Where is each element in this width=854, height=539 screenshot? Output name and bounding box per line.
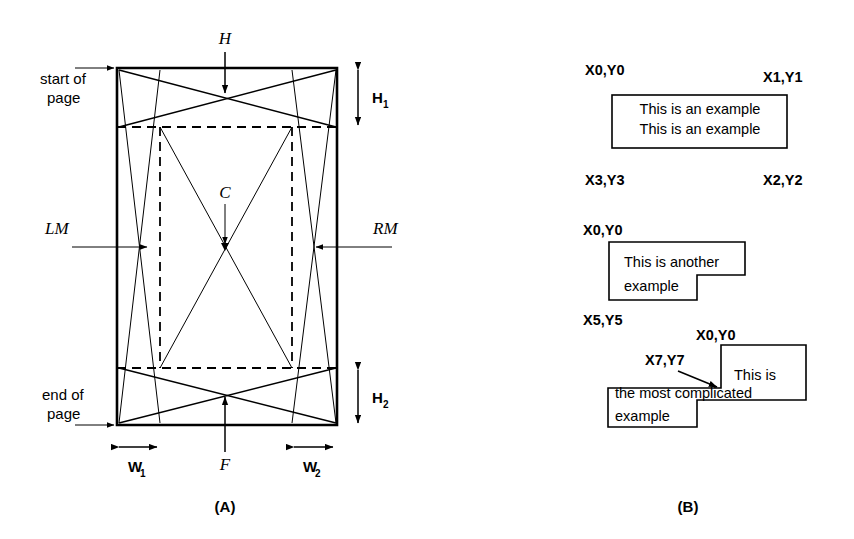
example3-group: X0,Y0 This is the most complicated examp…: [608, 327, 806, 427]
w1-dimension: W 1: [119, 447, 157, 479]
example3-text-line2: the most complicated: [615, 385, 752, 401]
start-of-page-label-line1: start of: [40, 70, 87, 87]
end-of-page-label-line1: end of: [42, 386, 85, 403]
h1-label: H: [372, 89, 383, 106]
w2-label-subscript: 2: [315, 468, 321, 479]
w1-label-subscript: 1: [140, 468, 146, 479]
example2-group: X0,Y0 This is another example X5,Y5: [583, 222, 745, 328]
figure-root: H C F LM RM: [0, 0, 854, 539]
footer-label: F: [219, 455, 231, 474]
figure-canvas: H C F LM RM: [0, 0, 854, 539]
example3-text-line3: example: [615, 408, 670, 424]
h2-dimension: H 2: [358, 370, 389, 423]
header-label: H: [218, 29, 233, 48]
example2-bottom-left-coord: X5,Y5: [583, 312, 623, 328]
example3-text-line1: This is: [734, 367, 776, 383]
h2-label: H: [372, 389, 383, 406]
panel-b-group: X0,Y0 X1,Y1 This is an example This is a…: [583, 62, 806, 515]
h2-label-subscript: 2: [383, 399, 389, 410]
panel-b-caption: (B): [678, 498, 699, 515]
footer-band-diagonals: [119, 368, 336, 423]
h1-label-subscript: 1: [383, 99, 389, 110]
example1-bottom-right-coord: X2,Y2: [763, 172, 803, 188]
example2-top-left-coord: X0,Y0: [583, 222, 623, 238]
example1-bottom-left-coord: X3,Y3: [585, 172, 625, 188]
center-callout: C: [219, 183, 231, 244]
example1-text-line1: This is an example: [640, 101, 761, 117]
example1-group: X0,Y0 X1,Y1 This is an example This is a…: [585, 62, 803, 188]
w2-dimension: W 2: [294, 447, 333, 479]
end-of-page-callout: end of page: [42, 386, 114, 425]
center-label: C: [219, 183, 231, 202]
example3-notch-coord: X7,Y7: [645, 352, 685, 368]
right-margin-label: RM: [372, 219, 398, 238]
header-callout: H: [218, 29, 233, 93]
panel-a-group: H C F LM RM: [40, 29, 398, 515]
example2-text-line2: example: [624, 278, 679, 294]
h1-dimension: H 1: [358, 70, 389, 125]
footer-callout: F: [219, 397, 231, 474]
example1-text-line2: This is an example: [640, 121, 761, 137]
example1-top-left-coord: X0,Y0: [585, 62, 625, 78]
example2-text-line1: This is another: [624, 254, 719, 270]
right-margin-callout: RM: [316, 219, 398, 247]
header-band-diagonals: [119, 70, 336, 127]
left-margin-callout: LM: [44, 219, 147, 247]
panel-a-caption: (A): [215, 498, 236, 515]
start-of-page-callout: start of page: [40, 68, 114, 106]
left-margin-label: LM: [44, 219, 69, 238]
example3-top-left-coord: X0,Y0: [696, 327, 736, 343]
example1-top-right-coord: X1,Y1: [763, 69, 803, 85]
end-of-page-label-line2: page: [47, 405, 80, 422]
start-of-page-label-line2: page: [47, 89, 80, 106]
